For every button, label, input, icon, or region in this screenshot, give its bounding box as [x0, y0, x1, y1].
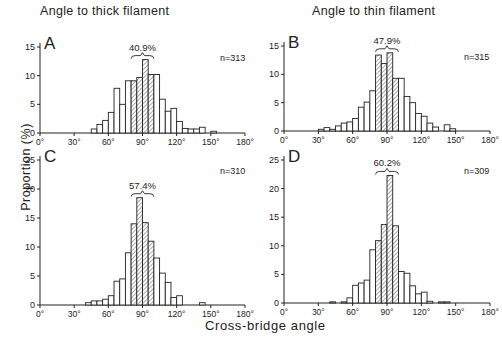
brace-icon: [131, 191, 154, 197]
x-tick-label: 120°: [168, 309, 186, 319]
histogram-bar: [330, 129, 336, 131]
histogram-bar: [353, 285, 359, 303]
x-tick-label: 120°: [413, 135, 431, 145]
y-tick-label: 10: [269, 241, 279, 251]
x-tick-label: 180°: [236, 309, 254, 319]
histogram-bar: [330, 302, 336, 303]
histogram-bar: [358, 283, 364, 303]
y-tick-label: 5: [30, 99, 35, 109]
x-tick-label: 120°: [168, 137, 186, 147]
histogram-bar-hatched: [387, 53, 393, 131]
histogram-bar: [120, 279, 126, 305]
histogram-bar: [427, 301, 433, 303]
histogram-bar: [114, 88, 120, 133]
x-tick-label: 60°: [102, 309, 115, 319]
histogram-bar: [91, 129, 97, 133]
y-tick-label: 15: [25, 213, 35, 223]
histogram-bar: [370, 91, 376, 131]
histogram-bar: [416, 294, 422, 303]
x-tick-label: 30°: [312, 135, 325, 145]
x-tick-label: 90°: [381, 135, 394, 145]
histogram-bar: [347, 122, 353, 131]
y-tick-label: 0: [30, 300, 35, 310]
histogram-bar: [160, 273, 166, 305]
histogram-bar-hatched: [137, 77, 143, 133]
percent-annotation: 60.2%: [374, 157, 401, 168]
histogram-bar: [103, 120, 109, 133]
histogram-bar: [324, 128, 330, 131]
histogram-bar: [416, 113, 422, 131]
y-tick-label: 5: [274, 98, 279, 108]
histogram-bar: [364, 280, 370, 303]
histogram-bar: [370, 250, 376, 303]
histogram-bar: [188, 129, 194, 133]
panel-letter: B: [288, 33, 299, 52]
histogram-bar: [398, 78, 404, 131]
histogram-bar: [433, 127, 439, 131]
histogram-bar: [427, 123, 433, 131]
percent-annotation: 40.9%: [129, 42, 156, 53]
histogram-bar: [358, 107, 364, 131]
plots-canvas: 0510150°30°60°90°120°150°180°An=31340.9%…: [0, 0, 502, 340]
panel-d: 05101520250°30°60°90°120°150°180°Dn=3096…: [269, 147, 499, 317]
histogram-bar: [171, 297, 177, 305]
x-tick-label: 0°: [280, 135, 288, 145]
histogram-bar: [199, 303, 205, 305]
histogram-bar: [114, 281, 120, 305]
histogram-bar: [444, 302, 450, 303]
sample-size-label: n=313: [220, 53, 245, 63]
x-tick-label: 0°: [36, 309, 44, 319]
histogram-bar: [91, 301, 97, 305]
x-tick-label: 0°: [36, 137, 44, 147]
x-tick-label: 150°: [202, 137, 220, 147]
x-tick-label: 180°: [236, 137, 254, 147]
panel-letter: D: [288, 147, 300, 166]
histogram-bar: [154, 75, 160, 133]
histogram-bar: [103, 299, 109, 305]
x-tick-label: 0°: [280, 307, 288, 317]
percent-annotation: 57.4%: [129, 180, 156, 191]
sample-size-label: n=315: [464, 52, 489, 62]
histogram-bar: [341, 302, 347, 303]
histogram-bar-hatched: [143, 223, 149, 305]
x-tick-label: 30°: [68, 309, 81, 319]
histogram-bar: [318, 129, 324, 131]
histogram-bar-hatched: [148, 75, 154, 133]
panel-a: 0510150°30°60°90°120°150°180°An=31340.9%: [25, 34, 254, 147]
histogram-bar: [347, 298, 353, 303]
histogram-bar-hatched: [381, 225, 387, 303]
x-tick-label: 90°: [136, 309, 149, 319]
histogram-bar: [108, 112, 114, 133]
histogram-bar-hatched: [148, 241, 154, 305]
histogram-bar-hatched: [393, 226, 399, 303]
x-tick-label: 180°: [481, 135, 499, 145]
y-tick-label: 5: [274, 269, 279, 279]
x-tick-label: 30°: [312, 307, 325, 317]
histogram-bar-hatched: [137, 198, 143, 305]
y-tick-label: 15: [269, 41, 279, 51]
histogram-bar: [211, 131, 217, 133]
histogram-bar-hatched: [393, 78, 399, 131]
histogram-bar: [120, 104, 126, 133]
histogram-bar-hatched: [131, 224, 137, 305]
histogram-bar: [199, 127, 205, 133]
y-tick-label: 15: [25, 42, 35, 52]
histogram-bar: [154, 258, 160, 305]
histogram-bar: [398, 272, 404, 303]
histogram-bar-hatched: [376, 241, 382, 303]
y-tick-label: 0: [30, 128, 35, 138]
brace-icon: [376, 168, 399, 174]
y-tick-label: 0: [274, 126, 279, 136]
histogram-bar: [341, 123, 347, 131]
histogram-bar: [450, 129, 456, 131]
y-tick-label: 10: [25, 242, 35, 252]
x-tick-label: 120°: [413, 307, 431, 317]
histogram-bar: [421, 116, 427, 131]
histogram-bar-hatched: [381, 64, 387, 131]
x-tick-label: 90°: [136, 137, 149, 147]
sample-size-label: n=309: [464, 166, 489, 176]
histogram-bar: [97, 124, 103, 133]
panel-letter: C: [44, 147, 56, 166]
y-tick-label: 25: [269, 155, 279, 165]
histogram-bar: [364, 102, 370, 131]
